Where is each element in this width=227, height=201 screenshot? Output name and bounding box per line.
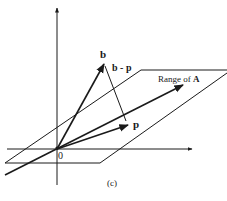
vector-b-label: b — [100, 48, 106, 60]
diagram-canvas: 0 b b - p p Range of A (c) — [0, 0, 227, 201]
vector-p-label: p — [133, 118, 139, 130]
figure-caption: (c) — [107, 178, 117, 188]
range-direction-arrow — [5, 85, 183, 175]
range-label: Range of A — [158, 74, 200, 84]
range-label-matrix: A — [193, 74, 200, 84]
origin-label: 0 — [58, 150, 63, 161]
range-label-prefix: Range of — [158, 74, 193, 84]
b-minus-p-segment — [105, 66, 126, 121]
vector-b-minus-p-label: b - p — [112, 62, 132, 73]
